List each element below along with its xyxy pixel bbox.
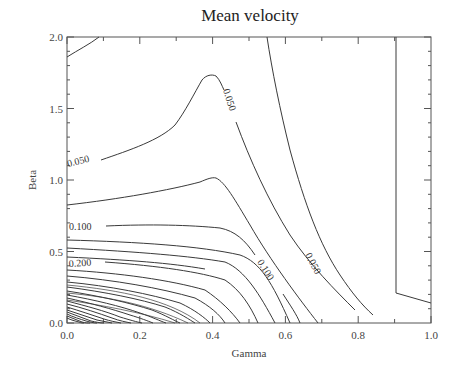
x-tick-label: 0.4 [206,329,220,341]
contour-label: 0.050 [221,87,238,112]
y-tick-label: 1.5 [49,103,63,115]
plot-frame [67,37,431,323]
x-tick-label: 0.8 [351,329,365,341]
x-axis-label: Gamma [232,347,267,359]
contour-label: 0.100 [255,257,276,282]
y-tick-label: 0.0 [49,317,63,329]
contour-label: 0.200 [68,256,91,269]
y-tick-label: 1.0 [49,174,63,186]
x-tick-label: 0.2 [133,329,147,341]
x-tick-label: 0.0 [60,329,74,341]
x-tick-label: 0.6 [279,329,293,341]
y-ticks [67,37,431,323]
y-axis-label: Beta [26,170,38,190]
contour-lines [67,37,431,323]
x-ticks [67,37,431,323]
y-tick-label: 2.0 [49,31,63,43]
y-tick-label: 0.5 [49,246,63,258]
contour-label: 0.100 [69,221,92,232]
contour-plot: 0.0 0.2 0.4 0.6 0.8 1.0 0.0 0.5 1.0 1.5 … [0,0,456,382]
x-tick-label: 1.0 [424,329,438,341]
contour-label: 0.050 [66,153,90,169]
contour-label: 0.050 [303,251,323,276]
